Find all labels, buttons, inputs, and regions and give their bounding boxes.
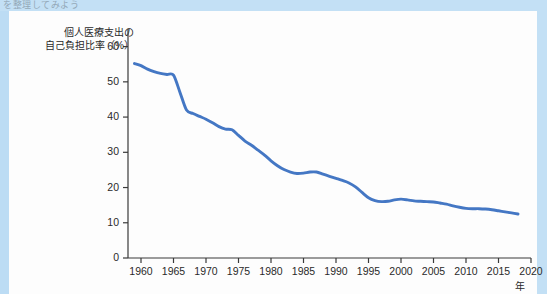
figure-card: 個人医療支出の 自己負担比率（%） 年 0102030405060 196019… (9, 11, 537, 294)
y-axis-tick-label: 60 (93, 40, 119, 52)
y-axis-tick-label: 30 (93, 145, 119, 157)
top-caption: を整理してみよう (0, 0, 537, 11)
y-axis-tick-label: 0 (93, 251, 119, 263)
data-series (135, 64, 519, 214)
axes (128, 29, 531, 258)
x-axis-tick-label: 2020 (511, 265, 547, 277)
line-chart-plot (9, 11, 537, 294)
y-axis-tick-label: 10 (93, 216, 119, 228)
y-axis-tick-label: 40 (93, 110, 119, 122)
x-axis-ticks (141, 258, 531, 263)
series-line (135, 64, 519, 214)
page-background: 個人医療支出の 自己負担比率（%） 年 0102030405060 196019… (0, 11, 537, 294)
y-axis-tick-label: 50 (93, 75, 119, 87)
y-axis-tick-label: 20 (93, 181, 119, 193)
y-axis-ticks (123, 47, 128, 258)
